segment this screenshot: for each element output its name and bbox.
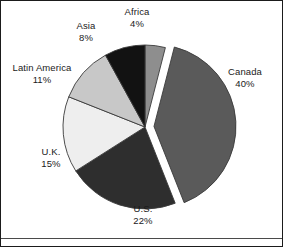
slice-label-asia-name: Asia [62, 20, 110, 32]
bottom-divider-rule [1, 238, 283, 239]
slice-label-uk-name: U.K. [24, 146, 78, 158]
slice-label-us: U.S. 22% [112, 203, 174, 226]
slice-label-canada-value: 40% [214, 78, 276, 90]
slice-label-asia-value: 8% [62, 32, 110, 44]
slice-label-asia: Asia 8% [62, 20, 110, 43]
pie-slice-group [63, 45, 236, 209]
slice-label-latin-america: Latin America 11% [2, 62, 82, 85]
slice-label-us-value: 22% [112, 215, 174, 227]
pie-chart-figure: Canada 40% U.S. 22% U.K. 15% Latin Ameri… [0, 0, 284, 248]
slice-label-latin-america-name: Latin America [2, 62, 82, 74]
slice-label-africa: Africa 4% [111, 6, 163, 29]
slice-label-canada: Canada 40% [214, 66, 276, 89]
slice-label-africa-name: Africa [111, 6, 163, 18]
slice-label-latin-america-value: 11% [2, 74, 82, 86]
slice-label-canada-name: Canada [214, 66, 276, 78]
slice-label-africa-value: 4% [111, 18, 163, 30]
slice-label-uk: U.K. 15% [24, 146, 78, 169]
slice-label-us-name: U.S. [112, 203, 174, 215]
slice-label-uk-value: 15% [24, 158, 78, 170]
